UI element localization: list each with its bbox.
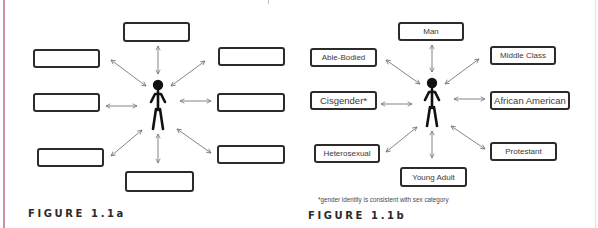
figure-b-box-young-adult: Young Adult: [400, 167, 467, 187]
arrow-a-upper-left: [111, 60, 146, 86]
figure-b-footnote: *gender identity is consistent with sex …: [318, 196, 449, 203]
figure-a-box-upper-right: [218, 47, 285, 66]
figure-a-box-upper-left: [33, 49, 100, 68]
figure-b-caption: FIGURE 1.1b: [308, 210, 406, 221]
figure-b-box-able-bodied: Able-Bodied: [310, 48, 377, 67]
figure-a-box-top: [123, 22, 190, 42]
arrow-b-upper-right: [445, 59, 479, 84]
figure-b-box-heterosexual: Heterosexual: [314, 144, 380, 163]
figure-a-box-lower-left: [37, 148, 104, 167]
arrow-b-lower-left: [386, 127, 417, 152]
arrow-b-upper-left: [386, 60, 420, 84]
figure-a-box-bottom: [125, 171, 194, 192]
figure-b-box-cisgender: Cisgender*: [310, 91, 377, 110]
arrow-a-upper-right: [171, 61, 205, 86]
figure-a-box-lower-right: [217, 145, 285, 164]
figure-a-box-middle-left: [33, 93, 100, 112]
person-icon: [151, 80, 165, 129]
arrow-a-lower-left: [111, 130, 142, 156]
figure-b-box-protestant: Protestant: [490, 142, 557, 161]
figure-b-box-african-american: African American: [490, 91, 570, 110]
arrow-a-lower-right: [177, 129, 211, 153]
diagram-connectors: [0, 0, 598, 228]
figure-b-box-middle-class: Middle Class: [490, 46, 556, 65]
person-icon: [425, 78, 439, 126]
arrow-b-lower-right: [451, 126, 485, 149]
figure-a-caption: FIGURE 1.1a: [28, 208, 126, 219]
figure-b-box-man: Man: [398, 22, 464, 41]
figure-a-box-middle-right: [217, 93, 285, 112]
